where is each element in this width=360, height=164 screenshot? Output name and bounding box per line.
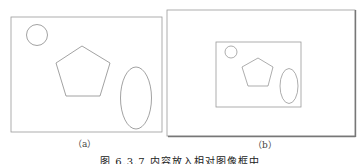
panel-a [11,17,162,132]
circle-shape [27,25,48,46]
panel-a-label: （a） [73,137,96,150]
ellipse-shape [121,67,152,129]
pentagon-shape [56,46,110,96]
panel-b-label: （b） [253,138,277,151]
panel-b [167,10,356,137]
outer-frame-b [167,10,355,136]
circle-shape [225,46,237,58]
inner-frame-b [216,42,301,107]
ellipse-shape [280,69,298,104]
frame-a [11,17,162,132]
figure-caption: 图 6.3.7 内容放入相对图像框中 [100,153,260,164]
figure-canvas [0,0,360,164]
pentagon-shape [242,58,273,86]
